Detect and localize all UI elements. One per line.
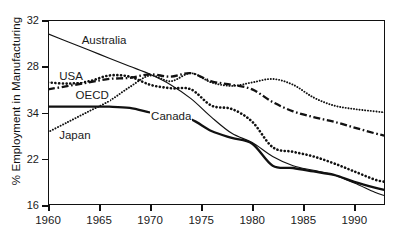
x-axis-tick-label: 1965 [86, 214, 112, 226]
x-axis-tick [201, 205, 203, 211]
y-axis-tick [42, 159, 48, 161]
y-axis-tick-label: 32 [27, 14, 39, 26]
x-axis-tick-label: 1990 [342, 214, 368, 226]
y-axis-tick [42, 20, 48, 22]
x-axis-tick-label: 1970 [137, 214, 163, 226]
x-axis-tick-label: 1975 [188, 214, 214, 226]
x-axis-tick [99, 205, 101, 211]
x-axis-tick [252, 205, 254, 211]
y-axis-title: % Employment in Manufacturing [10, 1, 22, 201]
y-axis-tick-label: 34 [27, 107, 39, 119]
series-label-japan: Japan [58, 129, 91, 141]
x-axis-tick-label: 1985 [291, 214, 317, 226]
x-axis-tick [48, 205, 50, 211]
y-axis-tick-label: 16 [27, 199, 39, 211]
series-label-oecd: OECD [75, 89, 110, 101]
series-label-usa: USA [58, 70, 84, 82]
y-axis-tick [42, 113, 48, 115]
y-axis-tick [42, 66, 48, 68]
x-axis-tick [303, 205, 305, 211]
y-axis-tick-label: 28 [27, 60, 39, 72]
x-axis-tick [150, 205, 152, 211]
x-axis-tick-label: 1960 [35, 214, 61, 226]
series-label-canada: Canada [150, 110, 192, 122]
plot-area: 32283422161960196519701975198019851990Au… [48, 20, 385, 205]
chart-figure: % Employment in Manufacturing 3228342216… [0, 0, 409, 235]
series-label-australia: Australia [81, 34, 128, 46]
series-lines [48, 20, 385, 205]
x-axis-tick [354, 205, 356, 211]
y-axis-tick-label: 22 [27, 153, 39, 165]
series-line-canada [48, 107, 385, 190]
x-axis-tick-label: 1980 [239, 214, 265, 226]
series-line-oecd [48, 73, 385, 136]
series-line-australia [48, 34, 385, 196]
